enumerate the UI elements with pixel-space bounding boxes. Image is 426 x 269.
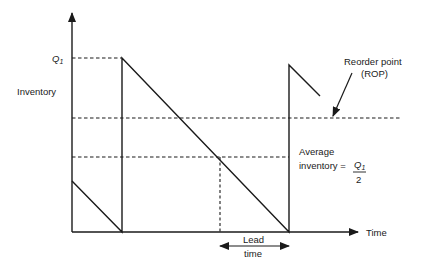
- y-axis-label: Inventory: [17, 86, 56, 97]
- lead-time-label-line2: time: [244, 248, 262, 259]
- inventory-diagram: Q1 Inventory Reorder point (ROP) Average…: [0, 0, 426, 269]
- q1-label: Q1: [52, 53, 63, 65]
- average-label-line2: inventory =: [299, 160, 346, 171]
- x-axis-label: Time: [366, 227, 387, 238]
- average-fraction-denominator: 2: [356, 174, 361, 185]
- inventory-sawtooth-line: [72, 58, 320, 232]
- average-fraction-numerator: Q1: [354, 159, 365, 171]
- average-label-line1: Average: [299, 146, 334, 157]
- rop-label-line2: (ROP): [361, 68, 388, 79]
- rop-label-line1: Reorder point: [344, 56, 402, 67]
- lead-time-label-line1: Lead: [243, 234, 264, 245]
- rop-pointer-arrow: [333, 73, 352, 116]
